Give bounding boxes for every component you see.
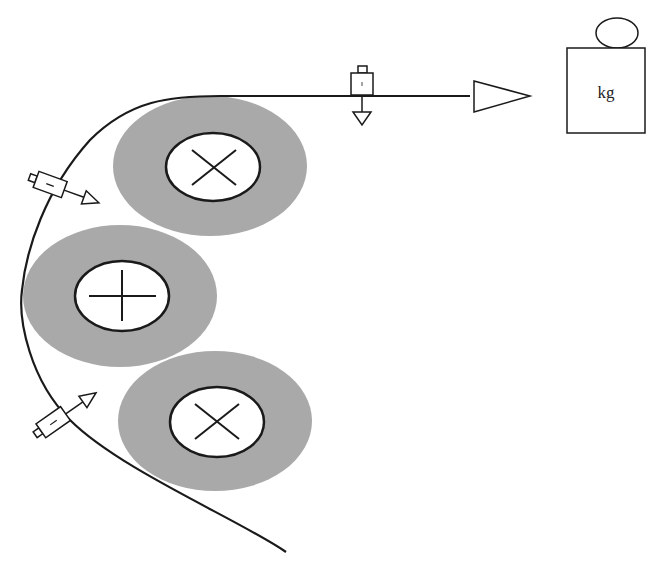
web-tension-diagram: kg bbox=[0, 0, 667, 584]
arrow-up-right-icon bbox=[79, 387, 100, 408]
arrow-right-icon bbox=[474, 81, 530, 112]
weight-handle bbox=[596, 18, 638, 48]
top-sensor bbox=[351, 66, 373, 125]
arrow-down-icon bbox=[353, 112, 371, 125]
arrow-right-icon bbox=[81, 191, 101, 210]
weight-label: kg bbox=[598, 83, 616, 102]
top-roll bbox=[113, 96, 307, 236]
middle-roll bbox=[23, 225, 217, 367]
bottom-roll bbox=[118, 351, 312, 491]
weight: kg bbox=[567, 18, 645, 133]
left-lower-sensor bbox=[30, 385, 100, 441]
